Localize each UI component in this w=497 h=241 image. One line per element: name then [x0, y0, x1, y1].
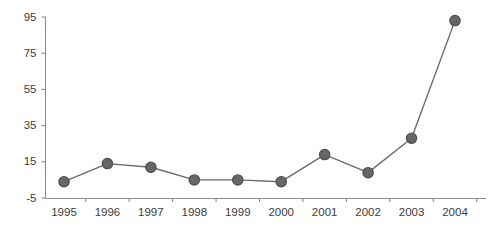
chart-plot-area: -51535557595 199519961997199819992000200…	[0, 0, 497, 241]
data-point-marker	[276, 177, 286, 187]
data-point-marker	[450, 15, 460, 25]
y-axis-tick-label: 95	[24, 11, 37, 23]
x-axis-tick-labels: 1995199619971998199920002001200220032004	[51, 206, 468, 218]
data-point-marker	[102, 158, 112, 168]
data-point-marker	[189, 175, 199, 185]
x-axis-tick-label: 2001	[312, 206, 338, 218]
x-axis-tick-label: 1995	[51, 206, 77, 218]
x-axis-tick-label: 2000	[268, 206, 294, 218]
x-axis-tick-label: 1997	[138, 206, 164, 218]
y-axis-tick-label: 55	[24, 83, 37, 95]
data-point-marker	[319, 149, 329, 159]
data-point-marker	[59, 177, 69, 187]
x-axis-tick-label: 2004	[442, 206, 468, 218]
y-axis: -51535557595	[24, 11, 46, 204]
series-markers	[59, 15, 460, 186]
data-point-marker	[146, 162, 156, 172]
y-axis-tick-label: -5	[26, 192, 36, 204]
x-axis-tick-label: 1998	[182, 206, 208, 218]
x-axis: 1995199619971998199920002001200220032004	[46, 198, 487, 218]
x-axis-tick-label: 2003	[399, 206, 425, 218]
x-axis-tick-label: 1999	[225, 206, 251, 218]
line-chart: -51535557595 199519961997199819992000200…	[0, 0, 497, 241]
x-axis-tick-label: 1996	[95, 206, 121, 218]
x-axis-tick-label: 2002	[355, 206, 381, 218]
y-axis-tick-label: 15	[24, 155, 37, 167]
series-line-path	[64, 21, 455, 182]
data-point-marker	[363, 167, 373, 177]
y-axis-ticks	[42, 17, 46, 198]
y-axis-tick-label: 75	[24, 47, 37, 59]
data-point-marker	[233, 175, 243, 185]
data-point-marker	[406, 133, 416, 143]
y-axis-tick-label: 35	[24, 119, 37, 131]
y-axis-tick-labels: -51535557595	[24, 11, 37, 204]
